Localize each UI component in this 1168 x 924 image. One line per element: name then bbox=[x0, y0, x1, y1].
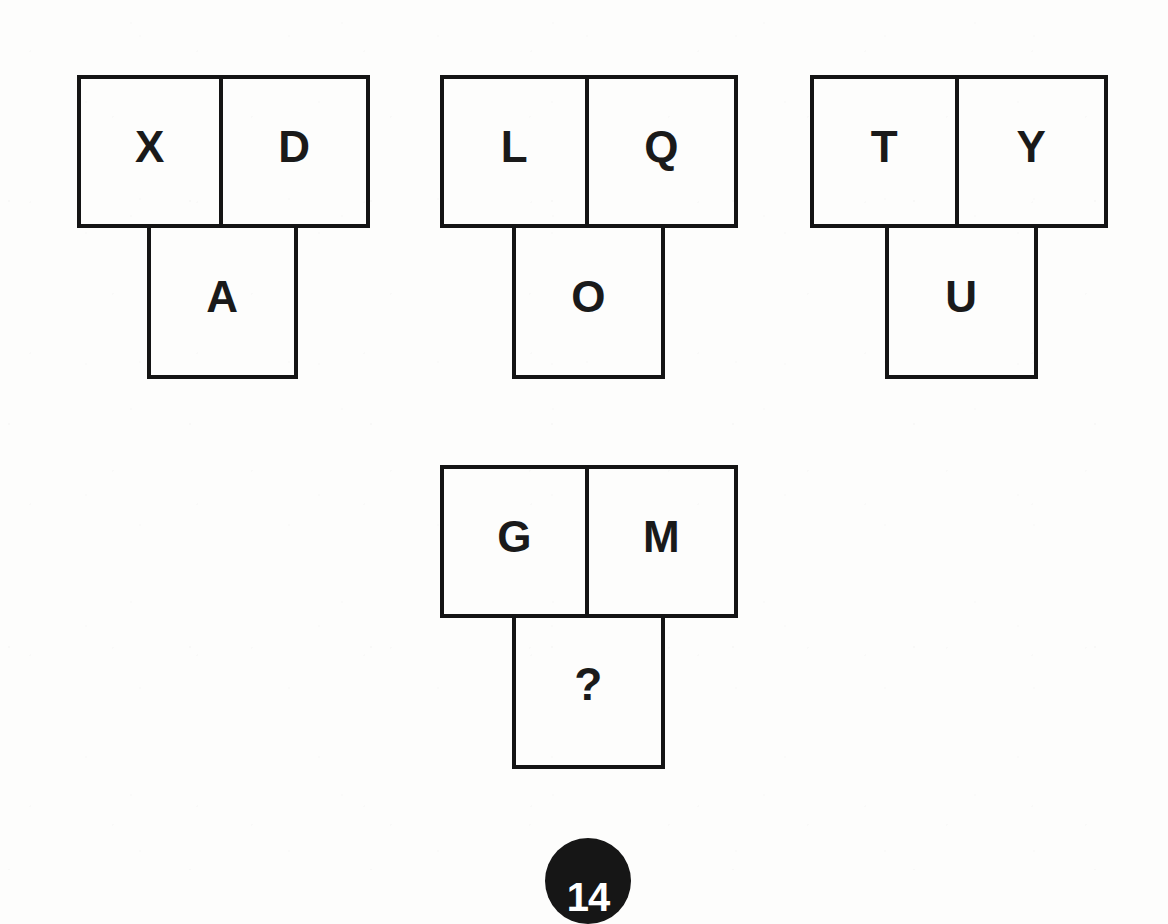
cell-letter: M bbox=[643, 515, 680, 559]
cell-letter: Y bbox=[1017, 125, 1047, 169]
answer-question-mark: ? bbox=[574, 661, 603, 707]
cell-letter: A bbox=[206, 275, 238, 319]
cell-group2-top-left[interactable]: L bbox=[440, 75, 589, 228]
cell-group1-top-left[interactable]: X bbox=[77, 75, 223, 228]
cell-letter: T bbox=[871, 125, 898, 169]
cell-letter: O bbox=[571, 275, 606, 319]
cell-group3-top-right[interactable]: Y bbox=[955, 75, 1108, 228]
page-number-text: 14 bbox=[567, 877, 610, 917]
cell-letter: L bbox=[501, 125, 528, 169]
page-number-badge: 14 bbox=[545, 838, 631, 924]
cell-letter: Q bbox=[644, 125, 679, 169]
cell-group3-top-left[interactable]: T bbox=[810, 75, 959, 228]
cell-group1-top-right[interactable]: D bbox=[219, 75, 370, 228]
cell-group4-top-left[interactable]: G bbox=[440, 465, 589, 618]
cell-group2-bottom[interactable]: O bbox=[512, 224, 665, 379]
cell-group1-bottom[interactable]: A bbox=[147, 224, 298, 379]
cell-letter: D bbox=[278, 125, 310, 169]
cell-letter: G bbox=[497, 515, 532, 559]
cell-letter: X bbox=[135, 125, 165, 169]
cell-group4-answer[interactable]: ? bbox=[512, 614, 665, 769]
cell-group3-bottom[interactable]: U bbox=[885, 224, 1038, 379]
cell-group2-top-right[interactable]: Q bbox=[585, 75, 738, 228]
cell-letter: U bbox=[945, 275, 977, 319]
cell-group4-top-right[interactable]: M bbox=[585, 465, 738, 618]
